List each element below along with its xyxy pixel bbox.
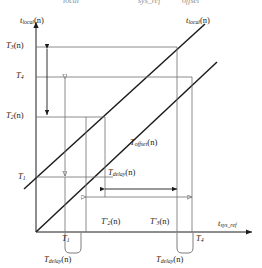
xtick-label-T4: T4 [196,234,204,244]
curve-label-sub: local [188,19,200,25]
xtick-T4-sub: 4 [201,237,204,243]
label-T-offset-sub: offset [135,141,148,147]
label-T-offset: Toffset(n) [130,138,157,148]
label-T-delay-left-sub: delay [49,258,62,264]
curve-label-local: tlocal(n) [186,16,210,26]
bottom-brace-right [177,233,193,253]
y-axis-label-sub: local [22,19,34,25]
ytick-label-T4: T4 [16,71,24,81]
ytick-T1-sub: 1 [23,175,26,181]
label-T2-prime: T'2(n) [101,217,120,227]
label-T-delay-right-arg: (n) [173,254,183,264]
diagonal-line-local-offset [24,24,205,189]
label-T-delay-right-sub: delay [161,258,174,264]
diagonal-line-reference [36,62,217,232]
xtick-T1-sub: 1 [67,237,70,243]
xtick-label-T1: T1 [62,234,70,244]
y-axis-label: tlocal(n) [20,16,44,26]
ytick-label-T3n: T3(n) [6,41,24,51]
ytick-label-T2n: T2(n) [6,111,24,121]
ytick-T3n-arg: (n) [14,40,24,50]
label-T-delay-mid-arg: (n) [125,167,135,177]
diagonal-lines-group [24,24,217,232]
x-axis-label-sub: sys_ref [220,222,236,228]
brace-right-shape [177,233,193,253]
x-axis-label: tsys_ref [218,219,237,229]
label-T-delay-left: Tdelay(n) [44,255,71,265]
label-T3-prime: T'3(n) [150,217,169,227]
label-T-delay-left-arg: (n) [61,254,71,264]
label-T2-prime-arg: (n) [110,216,120,226]
vertical-guides-group [65,47,192,232]
measure-delay-horizontal [86,189,192,197]
label-T-offset-arg: (n) [147,137,157,147]
label-T-delay-right: Tdelay(n) [156,255,183,265]
axes-group [36,22,252,232]
ytick-T2n-arg: (n) [14,110,24,120]
ytick-T4-sub: 4 [21,74,24,80]
curve-label-arg: (n) [200,15,210,25]
label-T-delay-mid: Tdelay(n) [108,168,135,178]
timing-diagram-figure: local sys_ref offset [0,0,262,268]
y-axis-label-arg: (n) [34,15,44,25]
label-T3-prime-arg: (n) [159,216,169,226]
label-T-delay-mid-sub: delay [113,171,126,177]
ytick-label-T1: T1 [18,172,26,182]
